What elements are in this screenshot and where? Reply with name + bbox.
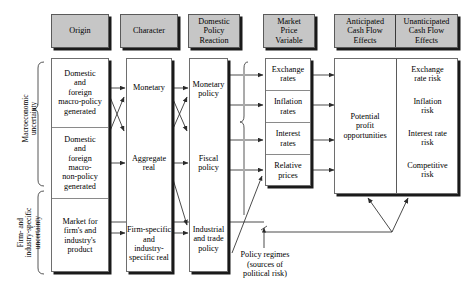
annotation-policy-regimes: Policy regimes (sources of political ris… (222, 250, 308, 279)
side-label-macro-line2: uncertainty (30, 81, 38, 155)
character-item-aggregate-real: Aggregate real (126, 152, 172, 174)
header-character: Character (120, 14, 178, 48)
market-cell-inflation-rates-label: Inflation rates (274, 97, 302, 116)
arrows-character-to-policy (172, 88, 188, 233)
market-cell-relative-prices-label: Relative prices (274, 161, 301, 180)
market-cell-exchange-rates: Exchange rates (265, 58, 311, 90)
unanticipated-cell-inflation-risk: Inflation risk (397, 94, 458, 118)
anticipated-cell-potential-profit: Potential profit opportunities (334, 108, 396, 144)
origin-cell-macro-policy-label: Domestic and foreign macro-policy genera… (58, 69, 102, 116)
feedback-v-arrows (368, 198, 408, 232)
arrows-policy-to-market (228, 62, 263, 215)
arrows-origin-to-character (110, 88, 125, 233)
origin-cell-market-for-product: Market for firm's and industry's product (51, 199, 109, 272)
origin-cell-macro-policy: Domestic and foreign macro-policy genera… (51, 58, 109, 127)
side-label-firm-line3: uncertainty (34, 193, 42, 273)
market-cell-exchange-rates-label: Exchange rates (272, 65, 304, 84)
character-item-monetary-label: Monetary (133, 83, 165, 92)
unanticipated-cell-interest-rate-risk-label: Interest rate risk (408, 129, 447, 148)
side-label-firm-specific: Firm- and industry-specific uncertainty (17, 193, 42, 273)
market-cell-inflation-rates: Inflation rates (265, 91, 311, 122)
policy-item-industrial-trade-policy-label: Industrial and trade policy (193, 225, 224, 253)
header-anticipated-label: Anticipated Cash Flow Effects (346, 17, 384, 46)
diagram-canvas: Macroeconomic uncertainty Firm- and indu… (0, 0, 465, 287)
header-character-label: Character (133, 26, 165, 36)
annotation-policy-regimes-line3: political risk) (222, 269, 308, 279)
annotation-policy-regimes-line2: (sources of (222, 260, 308, 270)
anticipated-cell-potential-profit-label: Potential profit opportunities (343, 112, 386, 140)
unanticipated-cell-exchange-rate-risk-label: Exchange rate risk (411, 65, 443, 84)
unanticipated-cell-exchange-rate-risk: Exchange rate risk (397, 62, 458, 86)
header-market-price-variable: Market Price Variable (263, 14, 315, 48)
header-anticipated: Anticipated Cash Flow Effects (335, 15, 396, 47)
policy-item-fiscal-policy-label: Fiscal policy (198, 154, 218, 173)
side-label-macroeconomic: Macroeconomic uncertainty (22, 81, 39, 155)
annotation-policy-regimes-line1: Policy regimes (222, 250, 308, 260)
character-item-monetary: Monetary (126, 78, 172, 98)
header-unanticipated-label: Unanticipated Cash Flow Effects (404, 17, 450, 46)
header-unanticipated: Unanticipated Cash Flow Effects (396, 15, 457, 47)
origin-cell-market-for-product-label: Market for firm's and industry's product (62, 217, 97, 255)
header-origin-label: Origin (69, 26, 90, 36)
origin-cell-macro-non-policy-label: Domestic and foreign macro- non-policy g… (62, 135, 97, 191)
origin-cell-macro-non-policy: Domestic and foreign macro- non-policy g… (51, 128, 109, 198)
character-item-firm-specific-real: Firm-specific and industry- specific rea… (124, 222, 174, 266)
market-cell-relative-prices: Relative prices (265, 155, 311, 186)
policy-item-monetary-policy-label: Monetary policy (193, 80, 225, 99)
policy-item-fiscal-policy: Fiscal policy (189, 152, 228, 174)
market-cell-interest-rates: Interest rates (265, 123, 311, 154)
arrows-market-to-effects (312, 75, 334, 170)
header-market-price-variable-label: Market Price Variable (275, 17, 302, 46)
header-domestic-policy-reaction-label: Domestic Policy Reaction (198, 17, 229, 46)
character-item-firm-specific-real-label: Firm-specific and industry- specific rea… (127, 225, 171, 263)
header-origin: Origin (51, 14, 109, 48)
header-cash-flow-effects: Anticipated Cash Flow Effects Unanticipa… (334, 14, 458, 48)
market-cell-interest-rates-label: Interest rates (276, 129, 301, 148)
unanticipated-cell-interest-rate-risk: Interest rate risk (397, 126, 458, 150)
unanticipated-cell-inflation-risk-label: Inflation risk (413, 97, 441, 116)
character-item-aggregate-real-label: Aggregate real (132, 154, 166, 173)
policy-item-monetary-policy: Monetary policy (189, 78, 228, 100)
header-domestic-policy-reaction: Domestic Policy Reaction (188, 14, 240, 48)
unanticipated-cell-competitive-risk: Competitive risk (397, 158, 458, 182)
unanticipated-cell-competitive-risk-label: Competitive risk (407, 161, 447, 180)
